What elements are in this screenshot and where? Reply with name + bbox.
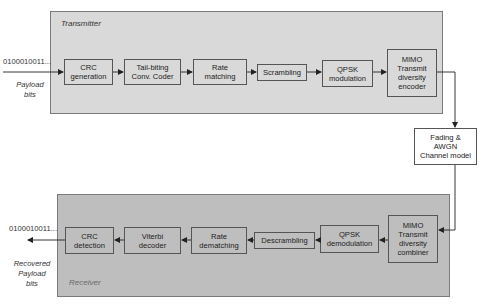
receiver-label: Receiver [69,278,101,287]
crc-generation-block: CRC generation [64,59,113,85]
qpsk-demodulation-block: QPSK demodulation [320,225,379,253]
descrambling-block: Descrambling [254,232,315,249]
rate-matching-block: Rate matching [193,59,247,85]
qpsk-modulation-block: QPSK modulation [322,60,373,87]
output-bits-text: 0100010011... [9,224,57,233]
scrambling-block: Scrambling [257,64,307,81]
recovered-bits-caption: Recovered Payload bits [10,259,54,289]
crc-detection-block: CRC detection [65,227,114,254]
viterbi-decoder-block: Viterbi decoder [124,227,181,254]
payload-bits-caption: Payload bits [14,80,46,100]
channel-model-block: Fading & AWGN Channel model [414,128,477,165]
transmitter-label: Transmitter [61,19,101,28]
mimo-encoder-block: MIMO Transmit diversity encoder [387,49,437,97]
mimo-combiner-block: MIMO Transmit diversity combiner [388,215,438,263]
conv-coder-block: Tail-biting Conv. Coder [124,59,181,85]
rate-dematching-block: Rate dematching [191,227,247,254]
input-bits-text: 0100010011... [3,57,51,66]
